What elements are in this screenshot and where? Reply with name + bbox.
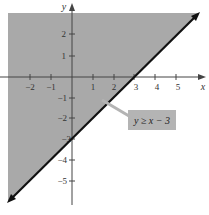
x-tick-label: −2 — [25, 82, 35, 92]
y-tick-label: −3 — [61, 134, 71, 144]
y-tick-label: −1 — [57, 93, 67, 103]
x-axis-label: x — [200, 81, 206, 92]
label-leader — [102, 100, 129, 116]
x-axis-arrow-icon — [198, 74, 206, 80]
x-tick-label: 4 — [155, 82, 160, 92]
inequality-graph: −2 −1 1 2 3 4 5 2 1 −1 −2 −3 −4 −5 x y y… — [0, 0, 209, 215]
y-tick-label: −5 — [57, 176, 67, 186]
inequality-label: y ≥ x − 3 — [133, 115, 170, 126]
y-tick-label: 2 — [62, 29, 67, 39]
x-tick-label: 5 — [176, 82, 181, 92]
y-tick-label: −2 — [57, 113, 67, 123]
x-tick-label: 2 — [112, 82, 117, 92]
x-tick-label: 3 — [134, 82, 139, 92]
x-tick-label: −1 — [46, 82, 56, 92]
y-tick-label: −4 — [57, 155, 67, 165]
x-tick-label: 1 — [91, 82, 96, 92]
y-tick-label: 1 — [62, 51, 67, 61]
y-axis-label: y — [61, 1, 67, 12]
y-axis-arrow-icon — [69, 3, 75, 11]
